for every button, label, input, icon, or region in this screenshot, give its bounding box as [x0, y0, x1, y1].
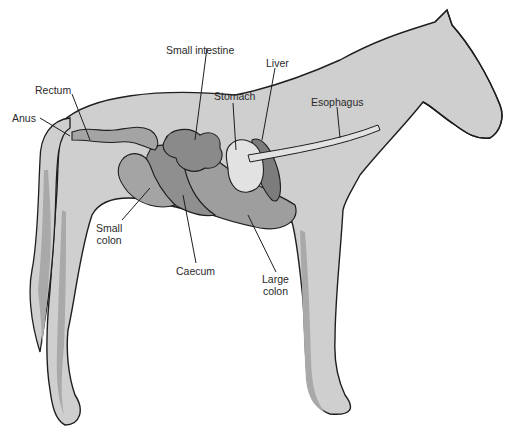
label-liver: Liver	[266, 57, 289, 69]
label-large-colon: Large colon	[262, 273, 289, 297]
label-small-colon-line2: colon	[96, 234, 122, 246]
label-large-colon-line1: Large	[262, 273, 289, 285]
label-small-intestine: Small intestine	[166, 44, 234, 56]
label-stomach: Stomach	[214, 90, 255, 102]
label-anus: Anus	[12, 112, 36, 124]
label-small-colon: Small colon	[96, 222, 122, 246]
label-rectum: Rectum	[35, 84, 71, 96]
label-large-colon-line2: colon	[262, 285, 289, 297]
label-small-colon-line1: Small	[96, 222, 122, 234]
label-esophagus: Esophagus	[311, 96, 364, 108]
horse-illustration	[0, 0, 520, 438]
label-caecum: Caecum	[176, 265, 215, 277]
stomach	[226, 140, 263, 192]
horse-digestive-diagram: Small intestine Liver Stomach Esophagus …	[0, 0, 520, 438]
